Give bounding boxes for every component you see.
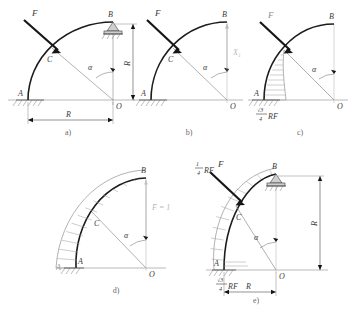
- force-label: F: [217, 159, 224, 169]
- moment-top-suffix: RF: [203, 166, 214, 175]
- point-label-C: C: [236, 213, 242, 222]
- force-label: F: [267, 10, 274, 20]
- angle-arc: [96, 72, 113, 78]
- force-label: F: [154, 8, 161, 18]
- reaction-x1: [225, 24, 229, 72]
- angle-label: α: [203, 63, 208, 72]
- angle-label: α: [254, 233, 259, 242]
- point-label-O: O: [279, 272, 285, 281]
- moment-top-denominator: 4: [197, 170, 200, 176]
- point-label-A: A: [213, 259, 219, 268]
- angle-label: α: [88, 63, 93, 72]
- force-arrow-line: [24, 20, 58, 50]
- unit-load-arrow: [144, 180, 148, 236]
- radial-line-OC: [173, 48, 227, 100]
- unit-load-label: F̄ = 1: [151, 203, 170, 212]
- angle-arrow: [110, 68, 115, 72]
- panel-label-a: a): [56, 128, 80, 137]
- angle-arrow: [143, 236, 148, 240]
- force-label: F: [31, 8, 38, 18]
- moment-top-numerator: 1: [196, 161, 199, 167]
- point-label-O: O: [230, 102, 236, 111]
- moment-suffix: RF: [267, 112, 278, 121]
- moment-value-label: √3 4 RF: [256, 107, 278, 122]
- base-moment-hatch: [224, 262, 248, 266]
- point-label-B: B: [222, 10, 227, 19]
- point-label-B: B: [141, 166, 146, 175]
- dimension-label-horizontal: R: [245, 282, 251, 291]
- dimension-label-horizontal: R: [65, 110, 71, 119]
- point-label-A: A: [253, 89, 259, 98]
- point-label-A: A: [17, 89, 23, 98]
- radial-line-OC: [92, 212, 146, 268]
- angle-arc: [319, 74, 334, 79]
- force-arrow-line: [260, 22, 290, 50]
- point-label-A: A: [77, 257, 83, 266]
- force-arrow-line: [210, 172, 242, 202]
- angle-arrow: [224, 68, 229, 72]
- moment-bottom-label: √3 4 RF: [216, 277, 238, 292]
- dimension-label-vertical: R: [310, 221, 319, 227]
- radial-line-OC: [52, 48, 113, 100]
- panel-e: 1 4 RF √3 4 RF A B C O F α R R e): [196, 150, 355, 310]
- point-label-B: B: [329, 12, 334, 21]
- moment-numerator: √3: [257, 107, 263, 113]
- angle-arrow: [331, 70, 336, 74]
- panel-label-d: d): [104, 286, 128, 295]
- point-label-O: O: [116, 102, 122, 111]
- moment-bottom-denominator: 4: [219, 286, 222, 292]
- panel-label-e: e): [244, 296, 268, 305]
- point-label-C: C: [94, 219, 100, 228]
- panel-b: A B C O F α X₁ b): [125, 0, 255, 140]
- point-label-O: O: [149, 270, 155, 279]
- support-a: [136, 100, 167, 106]
- panel-d: A A B C O α F̄ = 1 d): [48, 150, 198, 300]
- moment-denominator: 4: [259, 116, 262, 122]
- angle-label: α: [312, 65, 317, 74]
- point-label-R-left: A: [55, 263, 61, 272]
- panel-label-b: b): [177, 128, 201, 137]
- point-label-C: C: [47, 55, 53, 64]
- unit-moment-diagram: [56, 170, 146, 268]
- point-label-A: A: [140, 89, 146, 98]
- moment-bottom-suffix: RF: [227, 282, 238, 291]
- arch-curve: [224, 174, 276, 270]
- force-arrow-line: [147, 20, 179, 50]
- point-label-B: B: [272, 162, 277, 171]
- support-a: [61, 268, 84, 274]
- arch-curve: [76, 178, 146, 268]
- angle-label: α: [124, 231, 129, 240]
- point-label-O: O: [337, 102, 343, 111]
- support-a: [209, 270, 236, 276]
- moment-bottom-numerator: √3: [217, 277, 223, 283]
- panel-c: √3 4 RF A B O F α c): [240, 0, 355, 140]
- support-a: [13, 100, 44, 106]
- angle-arc: [130, 240, 146, 246]
- angle-arc: [211, 72, 227, 78]
- point-label-C: C: [168, 55, 174, 64]
- angle-arc: [260, 242, 276, 248]
- angle-arrow: [273, 238, 278, 242]
- support-a: [249, 100, 280, 106]
- support-b: [102, 22, 123, 39]
- panel-label-c: c): [288, 128, 312, 137]
- point-label-B: B: [108, 10, 113, 19]
- moment-top-label: 1 4 RF: [195, 161, 214, 176]
